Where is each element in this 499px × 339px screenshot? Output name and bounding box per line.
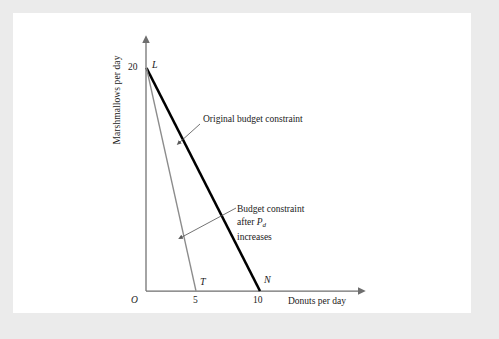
x-axis-title: Donuts per day bbox=[288, 296, 346, 306]
annotation-after-line3: increases bbox=[237, 232, 272, 242]
y-axis-title: Marshmallows per day bbox=[112, 55, 122, 144]
origin-label: O bbox=[131, 295, 138, 305]
x-tick-label-10: 10 bbox=[253, 295, 263, 305]
annotation-after-price-increase: Budget constraint after Pd increases bbox=[237, 203, 304, 244]
figure-panel bbox=[13, 13, 471, 313]
annotation-after-line2-subscript: d bbox=[263, 221, 267, 229]
point-label-l: L bbox=[152, 59, 158, 70]
y-tick-label-20: 20 bbox=[128, 62, 138, 72]
annotation-original-budget-constraint: Original budget constraint bbox=[203, 114, 303, 124]
figure-screenshot: Marshmallows per day Donuts per day 20 O… bbox=[0, 0, 499, 339]
point-label-n: N bbox=[264, 274, 271, 285]
annotation-after-line1: Budget constraint bbox=[237, 204, 304, 214]
x-tick-label-5: 5 bbox=[193, 295, 198, 305]
point-label-t: T bbox=[200, 276, 206, 287]
annotation-after-line2-prefix: after bbox=[237, 217, 257, 227]
